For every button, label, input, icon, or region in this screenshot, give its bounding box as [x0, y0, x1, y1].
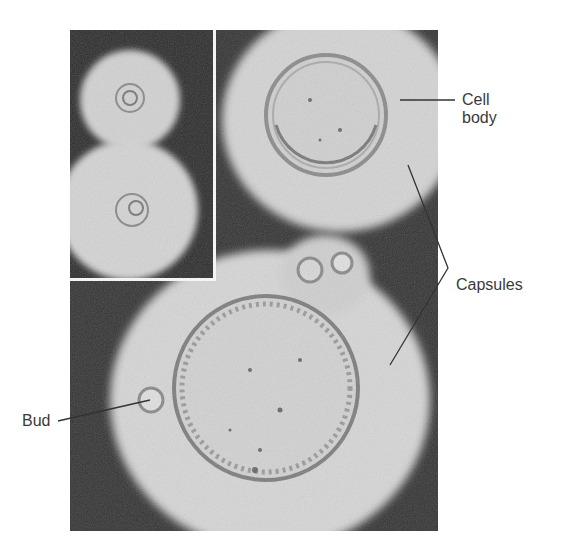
bud-label: Bud: [22, 412, 50, 430]
bud-leader: [58, 400, 150, 421]
cell-body-label-line2: body: [462, 109, 497, 127]
capsules-label: Capsules: [456, 276, 523, 294]
cell-body-label: Cell body: [462, 91, 497, 127]
cell-body-label-line1: Cell: [462, 91, 497, 109]
capsules-leader: [390, 165, 448, 365]
micrograph-figure: Cell body Capsules Bud: [0, 0, 567, 551]
